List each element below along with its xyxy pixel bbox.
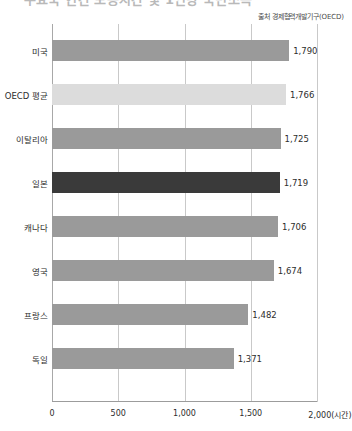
source-note: 출처 경제협력개발기구(OECD) [258, 11, 344, 21]
x-tick-label-1000: 1,000 [173, 409, 196, 418]
x-axis-tick-labels: 05001,0001,5002,000(시간) [0, 409, 350, 425]
bar-value-label: 1,719 [280, 178, 308, 188]
bar-rect[interactable] [52, 348, 234, 369]
bar-row[interactable]: OECD 평균1,766 [0, 84, 350, 106]
bar-chart: 미국1,790OECD 평균1,766이탈리아1,725일본1,719캐나다1,… [0, 24, 350, 402]
bar-value-label: 1,371 [234, 354, 262, 364]
bar-value-label: 1,706 [278, 222, 306, 232]
x-tick-label-2000: 2,000(시간) [308, 409, 351, 420]
x-axis-line [52, 401, 317, 402]
bar-category-label: 일본 [32, 177, 48, 189]
x-tick-label-1500: 1,500 [239, 409, 262, 418]
gridline-2000 [317, 24, 318, 402]
gridline-1500 [251, 24, 252, 402]
gridline-1000 [185, 24, 186, 402]
bar-rect[interactable] [52, 216, 278, 237]
bar-rect[interactable] [52, 304, 248, 325]
bar-row[interactable]: 독일1,371 [0, 348, 350, 370]
bar-row[interactable]: 영국1,674 [0, 260, 350, 282]
gridline-0 [52, 24, 53, 402]
bar-value-label: 1,790 [289, 46, 317, 56]
bar-rect[interactable] [52, 260, 274, 281]
bar-category-label: 프랑스 [24, 309, 48, 321]
x-tick-label-0: 0 [49, 409, 54, 418]
chart-title-strip: 주요국 연간 노동시간 및 1인당 국민소득 [0, 0, 350, 7]
bar-row[interactable]: 미국1,790 [0, 40, 350, 62]
bar-value-label: 1,482 [248, 310, 276, 320]
gridline-500 [118, 24, 119, 402]
bar-rect[interactable] [52, 40, 289, 61]
bar-value-label: 1,674 [274, 266, 302, 276]
bar-value-label: 1,725 [281, 134, 309, 144]
bar-category-label: OECD 평균 [5, 89, 48, 101]
bar-rect[interactable] [52, 172, 280, 193]
bar-rect[interactable] [52, 84, 286, 105]
bar-row[interactable]: 일본1,719 [0, 172, 350, 194]
page-title: 주요국 연간 노동시간 및 1인당 국민소득 [24, 0, 252, 7]
bar-row[interactable]: 캐나다1,706 [0, 216, 350, 238]
bar-category-label: 독일 [32, 353, 48, 365]
bar-category-label: 미국 [32, 45, 48, 57]
x-tick-label-500: 500 [111, 409, 126, 418]
bar-category-label: 캐나다 [24, 221, 48, 233]
bar-value-label: 1,766 [286, 90, 314, 100]
bar-rect[interactable] [52, 128, 281, 149]
bar-category-label: 이탈리아 [16, 133, 48, 145]
bar-category-label: 영국 [32, 265, 48, 277]
bar-row[interactable]: 이탈리아1,725 [0, 128, 350, 150]
bar-row[interactable]: 프랑스1,482 [0, 304, 350, 326]
